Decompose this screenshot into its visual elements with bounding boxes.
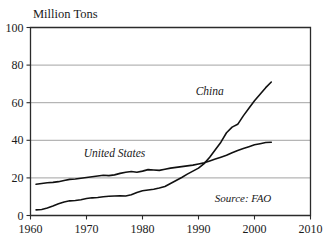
x-tick-label: 1970	[75, 222, 99, 236]
axis-frame	[31, 28, 311, 216]
x-tick-label: 1990	[187, 222, 211, 236]
chart-figure: 020406080100 196019701980199020002010 Ch…	[0, 0, 335, 248]
y-tick-label: 100	[6, 21, 24, 35]
source-note: Source: FAO	[215, 192, 272, 204]
y-tick-label: 20	[12, 171, 24, 185]
x-tick-labels: 196019701980199020002010	[19, 222, 323, 236]
line-chart: 020406080100 196019701980199020002010 Ch…	[0, 0, 335, 248]
gridlines-group	[31, 65, 311, 178]
series-label-china: China	[196, 85, 224, 97]
chart-title: Million Tons	[33, 7, 98, 21]
y-tick-label: 80	[12, 58, 24, 72]
tickmarks-group	[27, 28, 311, 220]
series-label-united-states: United States	[84, 147, 146, 159]
y-tick-label: 0	[18, 209, 24, 223]
x-tick-label: 2000	[243, 222, 267, 236]
y-tick-label: 40	[12, 133, 24, 147]
x-tick-label: 1960	[19, 222, 43, 236]
y-tick-label: 60	[12, 96, 24, 110]
series-line-china	[36, 82, 271, 210]
x-tick-label: 1980	[131, 222, 155, 236]
y-tick-labels: 020406080100	[6, 21, 24, 223]
data-series-group	[36, 82, 271, 210]
x-tick-label: 2010	[299, 222, 323, 236]
